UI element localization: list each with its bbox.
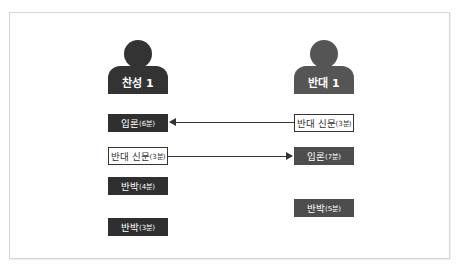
con-opening-box: 입론(7분) — [294, 147, 354, 165]
con-speaker-label: 반대 1 — [294, 66, 354, 94]
diagram-frame — [9, 12, 450, 259]
arrow-left — [170, 122, 294, 123]
person-head-icon — [310, 40, 338, 68]
arrow-right — [168, 156, 292, 157]
person-head-icon — [124, 40, 152, 68]
arrowhead-right-icon — [286, 152, 293, 160]
con-rebuttal-box: 반박(5분) — [294, 199, 354, 217]
pro-opening-box: 입론(6분) — [108, 114, 168, 132]
con-cross-exam-box: 반대 신문(3분) — [294, 114, 354, 132]
pro-rebuttal-2-box: 반박(3분) — [108, 218, 168, 236]
pro-cross-exam-box: 반대 신문(3분) — [108, 147, 168, 165]
pro-rebuttal-1-box: 반박(4분) — [108, 177, 168, 195]
pro-speaker-label: 찬성 1 — [108, 66, 168, 94]
arrowhead-left-icon — [169, 118, 176, 126]
